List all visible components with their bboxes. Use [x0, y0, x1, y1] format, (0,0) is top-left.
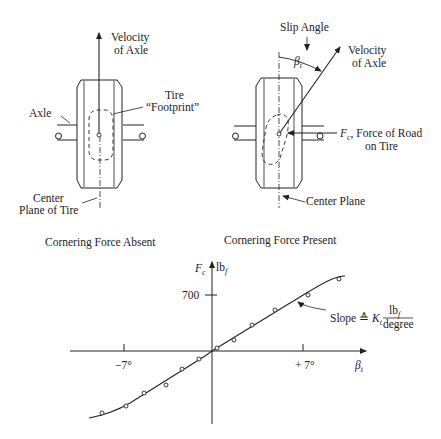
y-unit-label: lbf	[216, 261, 229, 276]
left-velocity-label-2: of Axle	[114, 44, 148, 56]
data-point	[232, 338, 236, 342]
right-velocity-label-2: of Axle	[352, 57, 386, 69]
slope-fraction-denominator: degree	[383, 318, 414, 331]
data-point	[180, 367, 184, 371]
x-tick-pos7-label: + 7°	[295, 359, 315, 371]
x-tick-neg7-label: −7°	[115, 359, 132, 371]
axle-label: Axle	[29, 107, 51, 119]
data-point	[197, 357, 201, 361]
cornering-force-graph	[70, 262, 366, 424]
data-point	[164, 383, 168, 387]
data-point	[142, 391, 146, 395]
footprint-label: Tire	[165, 89, 184, 101]
left-velocity-label: Velocity	[111, 31, 150, 44]
data-point	[337, 277, 341, 281]
y-axis-label: Fc	[194, 262, 206, 277]
slip-angle-label: Slip Angle	[280, 21, 329, 34]
data-point	[306, 293, 310, 297]
caption-cornering-force-present: Cornering Force Present	[224, 234, 337, 247]
center-plane-of-tire-label: Center	[33, 192, 64, 204]
right-tire-figure	[233, 37, 341, 208]
y-tick-700-label: 700	[182, 289, 200, 301]
tire-cornering-diagram: Velocity of Axle Axle Tire “Footprint” C…	[0, 0, 441, 439]
center-plane-label: Center Plane	[306, 195, 365, 207]
right-velocity-label: Velocity	[348, 44, 387, 57]
force-of-road-label-2: on Tire	[365, 140, 398, 152]
data-point	[124, 404, 128, 408]
footprint-label-2: “Footprint”	[146, 101, 199, 114]
slope-fraction-numerator: lbf	[389, 304, 402, 319]
data-point	[215, 346, 219, 350]
slope-label: Slope ≙ Kt	[330, 312, 383, 327]
data-point	[273, 308, 277, 312]
data-point	[250, 323, 254, 327]
center-plane-of-tire-label-2: Plane of Tire	[19, 204, 78, 216]
data-point	[100, 411, 104, 415]
beta-t-label: βt	[293, 55, 303, 70]
caption-cornering-force-absent: Cornering Force Absent	[45, 236, 156, 249]
left-tire-figure	[56, 33, 146, 208]
x-axis-label: βt	[354, 359, 364, 374]
